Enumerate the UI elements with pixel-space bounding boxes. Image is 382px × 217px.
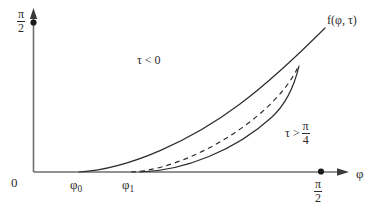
function-label: f(φ, τ) bbox=[327, 14, 357, 26]
pi-over-4-fraction: π 4 bbox=[302, 120, 310, 146]
middle-dashed-curve bbox=[131, 67, 298, 172]
x-axis-max-label: π 2 bbox=[314, 178, 322, 204]
region-label-tau-negative: τ < 0 bbox=[137, 54, 161, 66]
origin-label: 0 bbox=[11, 176, 18, 189]
fraction-numerator: π bbox=[302, 120, 310, 133]
x-axis-arrow-icon bbox=[337, 168, 349, 176]
math-figure: π 2 0 φ0 φ1 π 2 φ f(φ, τ) τ < 0 τ > π 4 bbox=[0, 0, 382, 217]
fraction-numerator: π bbox=[314, 178, 322, 191]
upper-boundary-curve bbox=[79, 28, 325, 172]
inequality-row: τ > π 4 bbox=[285, 120, 310, 146]
x-tick-label-phi0: φ0 bbox=[70, 178, 82, 194]
y-axis-max-label: π 2 bbox=[17, 8, 25, 34]
y-axis-pi-over-2-dot bbox=[30, 19, 36, 25]
fraction-numerator: π bbox=[17, 8, 25, 21]
phi-subscript: 1 bbox=[130, 184, 135, 194]
x-axis-pi-over-2-dot bbox=[318, 168, 324, 174]
fraction-denominator: 2 bbox=[17, 21, 25, 35]
phi-subscript: 0 bbox=[78, 184, 83, 194]
x-tick-label-phi1: φ1 bbox=[122, 178, 134, 194]
phi-symbol: φ bbox=[70, 177, 78, 192]
pi-over-2-fraction: π 2 bbox=[314, 178, 322, 204]
inequality-prefix: τ > bbox=[285, 127, 300, 139]
region-label-tau-gt-pi-over-4: τ > π 4 bbox=[285, 120, 310, 146]
x-axis-name-label: φ bbox=[356, 167, 364, 180]
fraction-denominator: 2 bbox=[314, 191, 322, 205]
phi-symbol: φ bbox=[122, 177, 130, 192]
plot-canvas bbox=[0, 0, 382, 217]
pi-over-2-fraction: π 2 bbox=[17, 8, 25, 34]
y-axis-arrow-icon bbox=[30, 8, 37, 19]
fraction-denominator: 4 bbox=[302, 133, 310, 147]
